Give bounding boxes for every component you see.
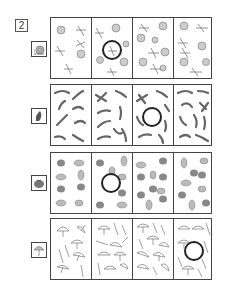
reference-umbrella-box	[31, 242, 47, 258]
row-tomatoes-grapes	[50, 152, 212, 214]
reference-snail-box	[31, 41, 47, 57]
row-umbrellas	[50, 218, 212, 280]
answer-circle	[102, 40, 122, 60]
panel-2[interactable]	[92, 219, 133, 279]
snail-icon	[32, 42, 46, 56]
umbrella-group	[133, 219, 173, 279]
snail-dragonfly-group	[51, 18, 91, 78]
panel-4[interactable]	[174, 219, 214, 279]
panel-3[interactable]	[133, 18, 174, 78]
exercise-number: 2	[19, 20, 25, 31]
tomato-grapes-group	[51, 153, 91, 213]
tomato-grapes-group	[174, 153, 214, 213]
reference-pea-pod-box	[31, 108, 47, 124]
panel-2[interactable]	[92, 85, 133, 145]
reference-tomato-box	[31, 175, 47, 191]
umbrella-group	[51, 219, 91, 279]
panel-1[interactable]	[51, 219, 92, 279]
pea-pod-group	[51, 85, 91, 145]
snail-dragonfly-group	[133, 18, 173, 78]
pea-pod-icon	[32, 109, 46, 123]
row-snails-dragonflies	[50, 17, 212, 79]
panel-1[interactable]	[51, 153, 92, 213]
panel-3[interactable]	[133, 219, 174, 279]
answer-circle	[184, 241, 204, 261]
tomato-icon	[32, 176, 46, 190]
panel-1[interactable]	[51, 85, 92, 145]
panel-4[interactable]	[174, 18, 214, 78]
panel-2[interactable]	[92, 153, 133, 213]
panel-4[interactable]	[174, 85, 214, 145]
tomato-grapes-group	[133, 153, 173, 213]
answer-circle	[142, 107, 162, 127]
snail-dragonfly-group	[174, 18, 214, 78]
panel-2[interactable]	[92, 18, 133, 78]
answer-circle	[101, 173, 121, 193]
panel-3[interactable]	[133, 85, 174, 145]
panel-4[interactable]	[174, 153, 214, 213]
exercise-number-box: 2	[15, 19, 28, 32]
panel-3[interactable]	[133, 153, 174, 213]
umbrella-icon	[32, 243, 46, 257]
pea-pod-group	[174, 85, 214, 145]
umbrella-group	[92, 219, 132, 279]
pea-pod-group	[92, 85, 132, 145]
row-pea-pods	[50, 84, 212, 146]
panel-1[interactable]	[51, 18, 92, 78]
